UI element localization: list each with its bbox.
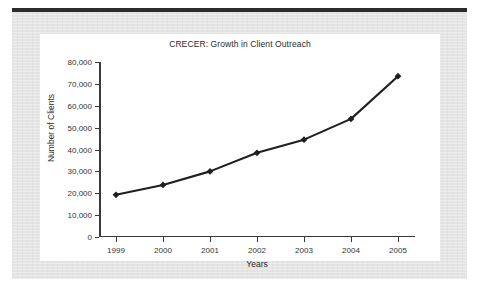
x-tick-mark — [210, 237, 211, 242]
x-tick-mark — [304, 237, 305, 242]
x-tick-mark — [257, 237, 258, 242]
x-tick-mark — [116, 237, 117, 242]
data-point-marker — [254, 149, 261, 156]
x-tick-mark — [398, 237, 399, 242]
y-tick-label: 50,000 — [68, 123, 92, 132]
y-tick-label: 60,000 — [68, 101, 92, 110]
x-tick-label: 2002 — [248, 246, 266, 255]
y-tick-label: 70,000 — [68, 79, 92, 88]
x-tick-mark — [163, 237, 164, 242]
plot-area: 010,00020,00030,00040,00050,00060,00070,… — [99, 62, 415, 237]
data-point-marker — [207, 168, 214, 175]
line-series-plot — [99, 62, 415, 237]
data-point-marker — [113, 191, 120, 198]
y-tick-label: 30,000 — [68, 167, 92, 176]
x-axis-label: Years — [99, 259, 415, 269]
y-axis-label: Number of Clients — [46, 94, 56, 162]
x-tick-label: 2005 — [389, 246, 407, 255]
y-tick-label: 10,000 — [68, 211, 92, 220]
x-tick-label: 2004 — [342, 246, 360, 255]
y-tick-label: 40,000 — [68, 145, 92, 154]
y-tick-label: 20,000 — [68, 189, 92, 198]
y-tick-label: 80,000 — [68, 58, 92, 67]
series-line — [116, 76, 398, 195]
data-point-marker — [301, 136, 308, 143]
chart-title: CRECER: Growth in Client Outreach — [40, 39, 440, 49]
data-point-marker — [160, 182, 167, 189]
x-tick-label: 2001 — [201, 246, 219, 255]
figure-panel: CRECER: Growth in Client Outreach Number… — [40, 34, 440, 261]
x-tick-label: 2003 — [295, 246, 313, 255]
x-tick-label: 1999 — [107, 246, 125, 255]
x-tick-mark — [351, 237, 352, 242]
series-markers — [113, 73, 402, 198]
screenshot-page: CRECER: Growth in Client Outreach Number… — [0, 0, 479, 291]
y-tick-label: 0 — [88, 233, 92, 242]
y-tick-mark — [95, 237, 99, 238]
x-tick-label: 2000 — [154, 246, 172, 255]
